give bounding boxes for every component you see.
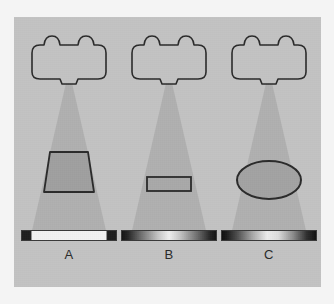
column-label-c: C	[218, 247, 320, 262]
column-label-b: B	[118, 247, 220, 262]
detector-bar-b	[121, 230, 217, 241]
trapezoid-object-a	[44, 152, 94, 192]
x-ray-tube-housing-a	[32, 36, 106, 84]
detector-bar-c	[221, 230, 317, 241]
column-b: B	[118, 17, 220, 287]
column-label-a: A	[18, 247, 120, 262]
detector-bar-a	[21, 230, 117, 241]
column-a: A	[18, 17, 120, 287]
x-ray-tube-housing-c	[232, 36, 306, 84]
diagram-panel: A B C	[14, 17, 321, 287]
cone-beam-c	[231, 83, 307, 235]
ellipse-object-c	[237, 161, 301, 199]
cone-beam-b	[131, 83, 207, 235]
figure-root: A B C	[0, 0, 334, 304]
column-c: C	[218, 17, 320, 287]
x-ray-tube-housing-b	[132, 36, 206, 84]
thin-slab-object-b	[147, 177, 191, 191]
